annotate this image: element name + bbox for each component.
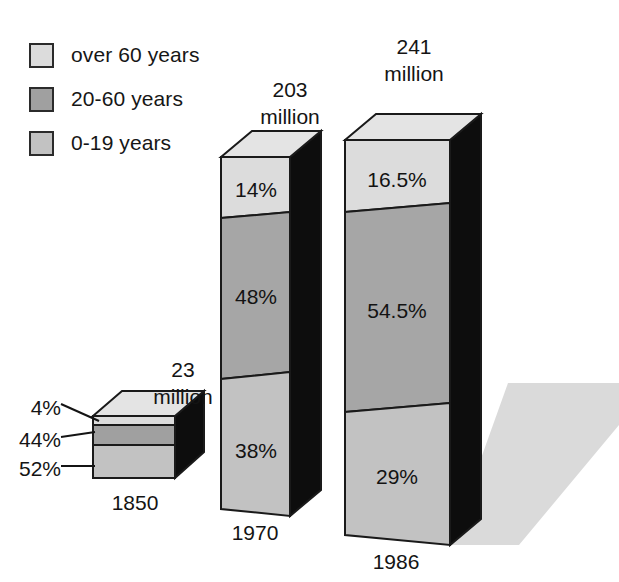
total-1850-unit: million — [153, 383, 213, 410]
total-1850-value: 23 — [153, 356, 213, 383]
legend-item-over-60[interactable]: over 60 years — [29, 33, 200, 77]
category-label-1986: 1986 — [373, 549, 420, 574]
legend-swatch-0-19 — [29, 131, 54, 156]
segment-label-1970-0-19: 38% — [235, 439, 277, 463]
total-1986-value: 241 — [384, 33, 444, 60]
chart-canvas: over 60 years 20-60 years 0-19 years 23 … — [0, 0, 619, 582]
legend-item-0-19[interactable]: 0-19 years — [29, 121, 200, 165]
chart-legend: over 60 years 20-60 years 0-19 years — [29, 33, 200, 165]
total-1970-unit: million — [260, 103, 320, 130]
bar-1850-segment-over60 — [93, 416, 175, 425]
bar-1970-side — [290, 131, 321, 516]
legend-swatch-over-60 — [29, 43, 54, 68]
segment-label-1850-0-19: 52% — [19, 456, 61, 481]
total-label-1986: 241 million — [384, 33, 444, 87]
total-1986-unit: million — [384, 60, 444, 87]
category-label-1850: 1850 — [112, 490, 159, 515]
bar-1850-segment-20-60 — [93, 425, 175, 445]
total-label-1970: 203 million — [260, 76, 320, 130]
legend-label-0-19: 0-19 years — [71, 131, 171, 155]
segment-label-1986-0-19: 29% — [376, 465, 418, 489]
segment-label-1986-over60: 16.5% — [367, 168, 427, 192]
total-1970-value: 203 — [260, 76, 320, 103]
leader-line-44 — [61, 432, 95, 437]
bar-1850-segment-0-19 — [93, 445, 175, 478]
segment-label-1850-20-60: 44% — [19, 427, 61, 452]
category-label-1970: 1970 — [232, 520, 279, 545]
legend-item-20-60[interactable]: 20-60 years — [29, 77, 200, 121]
segment-label-1970-20-60: 48% — [235, 285, 277, 309]
segment-label-1970-over60: 14% — [235, 178, 277, 202]
total-label-1850: 23 million — [153, 356, 213, 410]
legend-label-20-60: 20-60 years — [71, 87, 183, 111]
legend-label-over-60: over 60 years — [71, 43, 200, 67]
leader-line-4 — [61, 404, 99, 421]
legend-swatch-20-60 — [29, 87, 54, 112]
segment-label-1986-20-60: 54.5% — [367, 299, 427, 323]
bar-1986-side — [450, 114, 481, 545]
segment-label-1850-over60: 4% — [31, 395, 61, 420]
